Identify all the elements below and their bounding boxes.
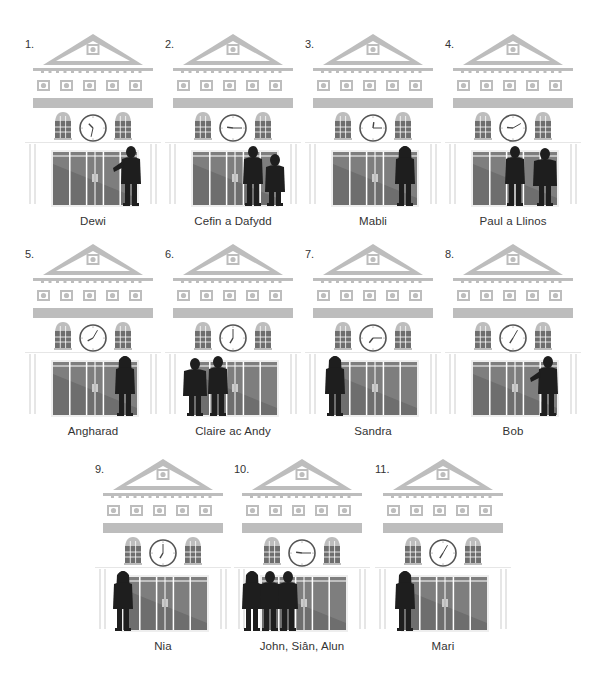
- panel-number: 2.: [165, 38, 174, 50]
- panel-caption: Paul a Llinos: [443, 215, 583, 227]
- ornament-tile-icon: [338, 505, 351, 516]
- pediment: [43, 34, 143, 65]
- cornice: [173, 278, 293, 281]
- scene-panel: 8.Bob: [443, 238, 583, 448]
- ornament-tile-icon: [315, 505, 328, 516]
- cornice: [383, 493, 503, 496]
- arched-window-icon: [464, 537, 482, 565]
- ornament-tile-icon: [410, 505, 423, 516]
- ornament-tile-icon: [409, 290, 422, 301]
- ornament-tile-icon: [526, 290, 539, 301]
- ornament-tile-icon: [433, 505, 446, 516]
- band: [242, 523, 362, 533]
- clock-icon: [80, 325, 106, 351]
- arched-window-icon: [114, 322, 132, 350]
- ornament-tile-icon: [223, 290, 236, 301]
- ornament-tile-icon: [269, 505, 282, 516]
- ornament-tile-icon: [317, 80, 330, 91]
- ornament-tile-icon: [106, 290, 119, 301]
- panel-number: 1.: [25, 38, 34, 50]
- cornice: [453, 278, 573, 281]
- building-illustration: [23, 238, 163, 423]
- ornament-tile-icon: [363, 290, 376, 301]
- ornament-tile-icon: [296, 469, 309, 480]
- ornament-tile-icon: [129, 80, 142, 91]
- pediment: [323, 244, 423, 275]
- panel-number: 10.: [234, 463, 249, 475]
- ornament-tile-icon: [87, 44, 100, 55]
- ornament-tile-icon: [386, 80, 399, 91]
- panel-caption: Sandra: [303, 425, 443, 437]
- pediment: [252, 459, 352, 490]
- pediment: [183, 34, 283, 65]
- building-illustration: [443, 28, 583, 213]
- ornament-tile-icon: [60, 290, 73, 301]
- building-illustration: [163, 28, 303, 213]
- band: [173, 98, 293, 108]
- ornament-tile-icon: [480, 80, 493, 91]
- ornament-tile-icon: [457, 80, 470, 91]
- panel-caption: Mari: [373, 640, 513, 652]
- scene-panel: 9.Nia: [93, 453, 233, 663]
- panel-caption: Bob: [443, 425, 583, 437]
- panel-number: 3.: [305, 38, 314, 50]
- ornament-tile-icon: [269, 290, 282, 301]
- pediment: [393, 459, 493, 490]
- scene-panel: 7.Sandra: [303, 238, 443, 448]
- panel-number: 5.: [25, 248, 34, 260]
- clock-icon: [220, 115, 246, 141]
- building-illustration: [373, 453, 513, 638]
- clock-icon: [220, 325, 246, 351]
- panel-caption: Angharad: [23, 425, 163, 437]
- band: [453, 98, 573, 108]
- arched-window-icon: [184, 537, 202, 565]
- pediment: [463, 34, 563, 65]
- ornament-tile-icon: [507, 254, 520, 265]
- scene-panel: 4.Paul a Llinos: [443, 28, 583, 238]
- arched-window-icon: [194, 322, 212, 350]
- ornament-tile-icon: [227, 44, 240, 55]
- clock-icon: [430, 540, 456, 566]
- ornament-tile-icon: [409, 80, 422, 91]
- ornament-tile-icon: [456, 505, 469, 516]
- pediment: [43, 244, 143, 275]
- ornament-tile-icon: [479, 505, 492, 516]
- clock-icon: [360, 115, 386, 141]
- band: [103, 523, 223, 533]
- ornament-tile-icon: [176, 505, 189, 516]
- ornament-tile-icon: [367, 44, 380, 55]
- cornice: [313, 68, 433, 71]
- ornament-tile-icon: [129, 290, 142, 301]
- arched-window-icon: [254, 322, 272, 350]
- arched-window-icon: [474, 112, 492, 140]
- ornament-tile-icon: [386, 290, 399, 301]
- ornament-tile-icon: [37, 290, 50, 301]
- ornament-tile-icon: [269, 80, 282, 91]
- cornice: [173, 68, 293, 71]
- cornice: [242, 493, 362, 496]
- clock-icon: [80, 115, 106, 141]
- ornament-tile-icon: [200, 290, 213, 301]
- cornice: [33, 278, 153, 281]
- ornament-tile-icon: [503, 80, 516, 91]
- panel-caption: Mabli: [303, 215, 443, 227]
- pediment: [113, 459, 213, 490]
- ornament-tile-icon: [246, 80, 259, 91]
- ornament-tile-icon: [526, 80, 539, 91]
- clock-icon: [360, 325, 386, 351]
- panel-number: 4.: [445, 38, 454, 50]
- scene-panel: 11.Mari: [373, 453, 513, 663]
- scene-panel: 2.Cefin a Dafydd: [163, 28, 303, 238]
- clock-icon: [500, 115, 526, 141]
- panel-caption: Nia: [93, 640, 233, 652]
- band: [33, 308, 153, 318]
- ornament-tile-icon: [340, 290, 353, 301]
- ornament-tile-icon: [437, 469, 450, 480]
- building-illustration: [303, 28, 443, 213]
- ornament-tile-icon: [387, 505, 400, 516]
- scene-panel: 3.Mabli: [303, 28, 443, 238]
- clock-icon: [500, 325, 526, 351]
- panel-caption: Claire ac Andy: [163, 425, 303, 437]
- arched-window-icon: [534, 322, 552, 350]
- scene-panel: 10.John, Siân, Alun: [232, 453, 372, 663]
